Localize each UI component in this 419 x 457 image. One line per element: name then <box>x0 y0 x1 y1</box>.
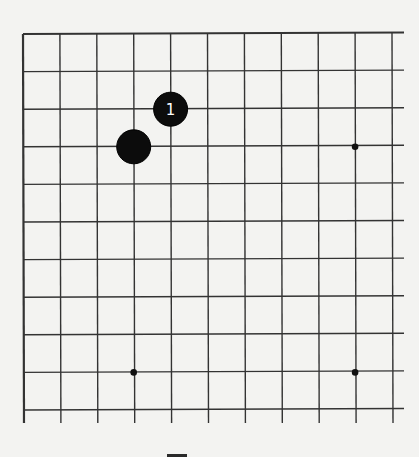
grid-line-vertical <box>97 34 98 423</box>
grid-line-horizontal <box>23 33 404 35</box>
star-point <box>352 144 359 151</box>
grid-line-vertical <box>60 34 61 423</box>
stone-body <box>117 130 151 164</box>
grid-line-vertical <box>23 34 24 423</box>
go-board: 1 <box>0 0 419 457</box>
black-stone <box>117 130 151 164</box>
grid-line-vertical <box>318 33 319 423</box>
star-point <box>130 369 137 376</box>
star-point <box>352 369 359 376</box>
grid-line-vertical <box>355 33 356 423</box>
grid-line-vertical <box>281 33 282 423</box>
grid-line-vertical <box>392 33 393 424</box>
move-number-label: 1 <box>166 101 176 119</box>
black-stone-numbered: 1 <box>154 92 188 126</box>
